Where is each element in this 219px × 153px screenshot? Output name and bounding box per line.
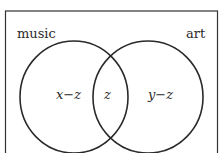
art-label: art [186,26,206,41]
left-only-region-label: x−z [56,87,81,102]
music-label: music [17,26,56,41]
intersection-region-label: z [103,87,111,102]
venn-diagram: music art x−z z y−z [0,0,219,153]
right-only-region-label: y−z [147,87,173,102]
